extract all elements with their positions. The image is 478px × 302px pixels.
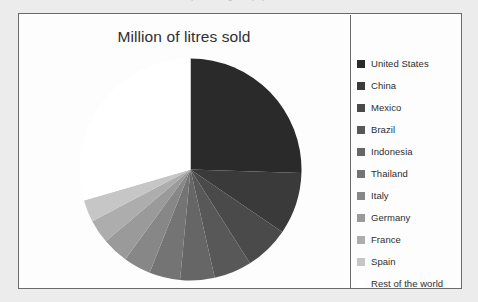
clipped-text-above-chart: Marc... from 2... percentage ... populat… <box>0 0 478 11</box>
legend-item[interactable]: Rest of the world <box>357 273 460 295</box>
plot-area <box>19 46 351 289</box>
legend-swatch-icon <box>357 258 365 266</box>
legend-item-label: France <box>371 229 401 251</box>
pie-slice <box>191 59 302 173</box>
chart-legend: United StatesChinaMexicoBrazilIndonesiaT… <box>350 15 460 289</box>
legend-item[interactable]: Brazil <box>357 119 460 141</box>
legend-item-label: Mexico <box>371 97 401 119</box>
legend-item-label: United States <box>371 53 429 75</box>
legend-swatch-icon <box>357 236 365 244</box>
legend-item-label: Thailand <box>371 163 408 185</box>
legend-item-label: Indonesia <box>371 141 413 163</box>
legend-item[interactable]: France <box>357 229 460 251</box>
legend-list: United StatesChinaMexicoBrazilIndonesiaT… <box>357 53 460 295</box>
clipped-text-fragment: Marc... from 2... percentage ... populat… <box>122 0 295 1</box>
legend-swatch-icon <box>357 148 365 156</box>
legend-item[interactable]: Spain <box>357 251 460 273</box>
legend-swatch-icon <box>357 104 365 112</box>
legend-item[interactable]: Germany <box>357 207 460 229</box>
legend-item-label: Germany <box>371 207 410 229</box>
legend-swatch-icon <box>357 170 365 178</box>
legend-swatch-icon <box>357 192 365 200</box>
legend-swatch-icon <box>357 280 365 288</box>
legend-item-label: Brazil <box>371 119 395 141</box>
legend-item-label: Spain <box>371 251 396 273</box>
legend-swatch-icon <box>357 82 365 90</box>
pie-slice-group <box>79 59 301 281</box>
chart-frame: Million of litres sold United StatesChin… <box>18 13 462 289</box>
legend-swatch-icon <box>357 60 365 68</box>
legend-swatch-icon <box>357 126 365 134</box>
legend-swatch-icon <box>357 214 365 222</box>
legend-item[interactable]: Mexico <box>357 97 460 119</box>
legend-item-label: Rest of the world <box>371 273 443 295</box>
legend-item[interactable]: Thailand <box>357 163 460 185</box>
pie-chart <box>79 58 302 281</box>
legend-item[interactable]: United States <box>357 53 460 75</box>
legend-item[interactable]: Italy <box>357 185 460 207</box>
pie-svg <box>79 58 302 281</box>
legend-item-label: China <box>371 75 396 97</box>
legend-item[interactable]: China <box>357 75 460 97</box>
chart-title: Million of litres sold <box>19 28 349 46</box>
legend-item[interactable]: Indonesia <box>357 141 460 163</box>
legend-item-label: Italy <box>371 185 389 207</box>
